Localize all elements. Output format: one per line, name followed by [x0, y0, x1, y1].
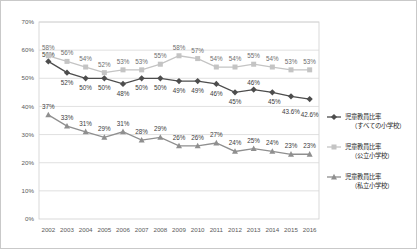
data-point-marker [307, 67, 312, 72]
data-point-marker [65, 59, 70, 64]
data-point-label: 23% [285, 142, 298, 149]
data-point-label: 49% [173, 87, 186, 94]
data-point-label: 24% [266, 139, 279, 146]
data-point-marker [289, 67, 294, 72]
legend-label-line1: 児童教員比率 [345, 172, 382, 181]
legend-label-line2: （私立小学校） [351, 181, 393, 190]
x-axis-tick-label: 2010 [191, 226, 205, 233]
legend-label-line1: 児童教員比率 [345, 112, 382, 121]
data-point-label: 26% [173, 134, 186, 141]
data-point-marker [233, 65, 238, 70]
data-point-label: 46% [210, 90, 223, 97]
data-point-label: 50% [79, 84, 92, 91]
y-axis-tick-label: 40% [22, 103, 35, 110]
x-axis-tick-label: 2012 [228, 226, 242, 233]
x-axis-tick-label: 2003 [60, 226, 74, 233]
y-axis-tick-label: 30% [22, 131, 35, 138]
data-point-label: 52% [98, 61, 111, 68]
data-point-marker [83, 65, 88, 70]
data-point-label: 54% [229, 55, 242, 62]
data-point-label: 23% [303, 142, 316, 149]
data-point-label: 45% [229, 98, 242, 105]
data-point-label: 53% [303, 58, 316, 65]
data-point-label: 58% [42, 44, 55, 51]
x-axis-tick-label: 2002 [41, 226, 55, 233]
data-point-label: 53% [285, 58, 298, 65]
data-point-marker [121, 67, 126, 72]
legend-marker [331, 114, 337, 120]
x-axis-tick-label: 2013 [247, 226, 261, 233]
data-point-label: 29% [98, 125, 111, 132]
data-point-label: 25% [247, 137, 260, 144]
x-axis-tick-label: 2014 [265, 226, 279, 233]
y-axis-tick-label: 20% [22, 159, 35, 166]
x-axis-tick-label: 2011 [210, 226, 224, 233]
data-point-label: 46% [247, 79, 260, 86]
legend-item[interactable]: 児童教員比率（私立小学校） [327, 172, 393, 190]
y-axis-tick-label: 0% [25, 215, 34, 222]
chart-plot-area: 0%10%20%30%40%50%60%70%20022003200420052… [1, 1, 417, 249]
data-point-label: 28% [135, 128, 148, 135]
data-point-label: 29% [154, 125, 167, 132]
data-point-label: 55% [247, 52, 260, 59]
x-axis-tick-label: 2004 [79, 226, 93, 233]
data-point-marker [46, 53, 51, 58]
data-point-label: 33% [61, 114, 74, 121]
data-point-marker [139, 67, 144, 72]
data-point-label: 49% [191, 87, 204, 94]
data-point-marker [102, 70, 107, 75]
data-point-marker [177, 53, 182, 58]
y-axis-tick-label: 10% [22, 187, 35, 194]
data-point-label: 24% [229, 139, 242, 146]
data-point-label: 42.6% [301, 111, 319, 118]
data-point-label: 50% [135, 84, 148, 91]
data-point-marker [195, 56, 200, 61]
data-point-marker [270, 65, 275, 70]
y-axis-tick-label: 50% [22, 74, 35, 81]
x-axis-tick-label: 2015 [284, 226, 298, 233]
data-point-label: 54% [79, 55, 92, 62]
data-point-label: 45% [268, 98, 281, 105]
x-axis-tick-label: 2006 [116, 226, 130, 233]
data-point-label: 53% [117, 58, 130, 65]
data-point-label: 58% [173, 44, 186, 51]
data-point-label: 55% [154, 52, 167, 59]
x-axis-tick-label: 2008 [153, 226, 167, 233]
legend-label-line2: （すべての小学校） [351, 121, 405, 130]
data-point-label: 27% [210, 131, 223, 138]
legend-item[interactable]: 児童教員比率（公立小学校） [327, 142, 393, 160]
data-point-label: 52% [61, 79, 74, 86]
data-point-label: 31% [117, 120, 130, 127]
y-axis-tick-label: 60% [22, 46, 35, 53]
legend-marker [332, 145, 337, 150]
x-axis-tick-label: 2007 [135, 226, 149, 233]
chart-frame: 0%10%20%30%40%50%60%70%20022003200420052… [0, 0, 417, 249]
data-point-label: 50% [98, 84, 111, 91]
x-axis-tick-label: 2009 [172, 226, 186, 233]
data-point-label: 43.6% [282, 108, 300, 115]
data-point-label: 50% [154, 84, 167, 91]
data-point-label: 57% [191, 47, 204, 54]
y-axis-tick-label: 70% [22, 18, 35, 25]
legend-label-line2: （公立小学校） [351, 151, 393, 160]
data-point-label: 56% [61, 49, 74, 56]
data-point-label: 48% [117, 90, 130, 97]
x-axis-tick-label: 2016 [303, 226, 317, 233]
x-axis-tick-label: 2005 [97, 226, 111, 233]
line-chart-svg: 0%10%20%30%40%50%60%70%20022003200420052… [1, 1, 417, 249]
data-point-label: 53% [135, 58, 148, 65]
data-point-label: 31% [79, 120, 92, 127]
legend-item[interactable]: 児童教員比率（すべての小学校） [327, 112, 405, 130]
legend-label-line1: 児童教員比率 [345, 142, 382, 151]
data-point-marker [214, 65, 219, 70]
data-point-label: 54% [266, 55, 279, 62]
data-point-marker [251, 62, 256, 67]
data-point-label: 37% [42, 103, 55, 110]
data-point-label: 26% [191, 134, 204, 141]
data-point-marker [158, 62, 163, 67]
data-point-label: 54% [210, 55, 223, 62]
